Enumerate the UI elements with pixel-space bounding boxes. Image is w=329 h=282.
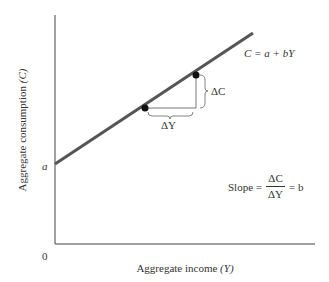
point-upper bbox=[193, 72, 200, 79]
intercept-label: a bbox=[42, 160, 48, 172]
slope-label: Slope = bbox=[228, 181, 262, 193]
delta-y-label: ΔY bbox=[161, 119, 176, 131]
origin-label: 0 bbox=[42, 250, 48, 262]
slope-numerator: ΔC bbox=[266, 172, 284, 187]
point-lower bbox=[142, 105, 149, 112]
consumption-diagram bbox=[0, 0, 329, 282]
line-equation-label: C = a + bY bbox=[244, 47, 294, 59]
x-axis-label-text: Aggregate income bbox=[136, 262, 217, 274]
delta-c-label: ΔC bbox=[211, 85, 225, 97]
slope-denominator: ΔY bbox=[266, 187, 285, 201]
y-axis-label-text: Aggregate consumption bbox=[16, 86, 28, 191]
slope-result: = b bbox=[289, 181, 303, 193]
y-axis-label: Aggregate consumption (C) bbox=[16, 69, 28, 192]
x-axis-symbol: (Y) bbox=[220, 262, 233, 274]
delta-y-brace bbox=[148, 112, 193, 119]
x-axis-label: Aggregate income (Y) bbox=[136, 262, 233, 274]
slope-formula: Slope = ΔC ΔY = b bbox=[228, 172, 304, 201]
delta-c-brace bbox=[200, 75, 208, 108]
slope-fraction: ΔC ΔY bbox=[266, 172, 285, 201]
y-axis-symbol: (C) bbox=[16, 69, 28, 84]
consumption-function-line bbox=[55, 33, 253, 164]
